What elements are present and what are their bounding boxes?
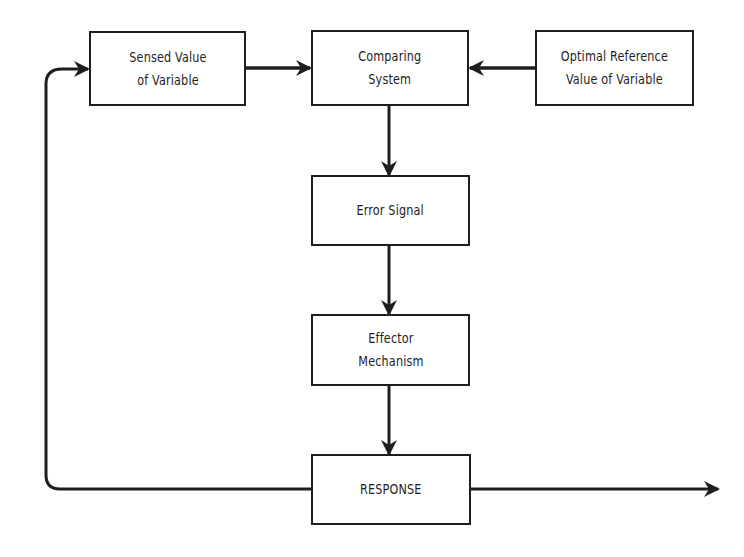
label-sensed-value: Sensed Value of Variable — [129, 46, 206, 92]
label-error-signal: Error Signal — [357, 199, 424, 222]
box-effector-mechanism: Effector Mechanism — [311, 314, 470, 386]
arrow-feedback-loop — [46, 69, 311, 489]
label-effector-mechanism: Effector Mechanism — [358, 327, 423, 373]
box-optimal-reference: Optimal Reference Value of Variable — [535, 30, 694, 106]
label-optimal-reference: Optimal Reference Value of Variable — [561, 45, 668, 91]
label-response: RESPONSE — [360, 478, 422, 501]
box-error-signal: Error Signal — [311, 175, 470, 246]
box-sensed-value: Sensed Value of Variable — [89, 31, 246, 106]
box-response: RESPONSE — [311, 454, 471, 525]
box-comparing-system: Comparing System — [311, 30, 469, 106]
label-comparing-system: Comparing System — [358, 45, 421, 91]
